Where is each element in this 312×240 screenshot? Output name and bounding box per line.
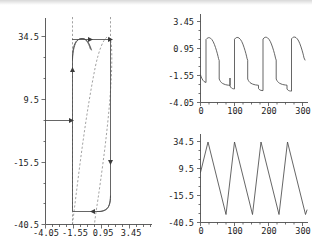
- slow-timeseries-svg: 34.5 9.5 -15.5 -40.5 0 100 200 300: [156, 120, 312, 240]
- fast-ytick-label-1: 0.95: [173, 44, 194, 54]
- phase-ytick-label-1: 9.5: [23, 95, 39, 105]
- figure-canvas: 34.5 9.5 -15.5 -40.5 -4.05 -1.55 0.95 3.…: [0, 0, 312, 240]
- fast-xtick-label-0: 0: [198, 106, 203, 116]
- slow-waveform-curve: [201, 142, 308, 215]
- fast-y-ticks: [197, 22, 201, 103]
- slow-x-ticks: [201, 223, 303, 227]
- fast-xtick-label-2: 200: [261, 106, 277, 116]
- fast-timeseries-panel: 3.45 0.95 -1.55 -4.05 0 100 200 300: [156, 0, 312, 120]
- fast-ytick-label-0: 3.45: [173, 17, 194, 27]
- phase-portrait-svg: 34.5 9.5 -15.5 -40.5 -4.05 -1.55 0.95 3.…: [0, 0, 156, 240]
- phase-portrait-panel: 34.5 9.5 -15.5 -40.5 -4.05 -1.55 0.95 3.…: [0, 0, 156, 240]
- slow-xtick-label-0: 0: [198, 226, 203, 236]
- limit-cycle-lower-knee: [98, 196, 111, 212]
- phase-xtick-label-0: -4.05: [33, 228, 59, 238]
- phase-xtick-label-3: 3.45: [121, 228, 142, 238]
- phase-xtick-label-1: -1.55: [62, 228, 88, 238]
- fast-xtick-label-1: 100: [227, 106, 243, 116]
- slow-ytick-label-3: -40.5: [168, 218, 194, 228]
- slow-xtick-label-1: 100: [227, 226, 243, 236]
- slow-xtick-label-2: 200: [261, 226, 277, 236]
- phase-ytick-label-0: 34.5: [18, 32, 39, 42]
- slow-ytick-label-1: 9.5: [178, 164, 194, 174]
- phase-ytick-label-2: -15.5: [13, 158, 39, 168]
- phase-xtick-label-2: 0.95: [93, 228, 114, 238]
- slow-xtick-label-3: 300: [295, 226, 311, 236]
- slow-ytick-label-0: 34.5: [173, 137, 194, 147]
- fast-ytick-label-2: -1.55: [168, 71, 194, 81]
- fast-x-ticks: [201, 103, 303, 107]
- phase-y-ticks: [42, 37, 46, 225]
- trajectory-arrow-markers: [69, 37, 113, 214]
- limit-cycle-curve: [73, 39, 111, 212]
- fast-waveform-curve: [201, 37, 306, 91]
- slow-ytick-label-2: -15.5: [168, 191, 194, 201]
- fast-xtick-label-3: 300: [295, 106, 311, 116]
- slow-y-ticks: [197, 142, 201, 223]
- cubic-nullcline-curve: [73, 37, 112, 224]
- fast-ytick-label-3: -4.05: [168, 98, 194, 108]
- slow-timeseries-panel: 34.5 9.5 -15.5 -40.5 0 100 200 300: [156, 120, 312, 240]
- fast-timeseries-svg: 3.45 0.95 -1.55 -4.05 0 100 200 300: [156, 0, 312, 120]
